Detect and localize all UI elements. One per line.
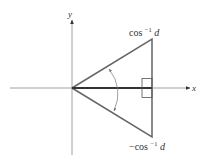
bottom-angle-exponent: −1 <box>150 140 157 147</box>
cone-angle-diagram: y x cos −1 d −cos −1 d <box>0 0 205 155</box>
double-arrow-arc <box>109 69 118 111</box>
top-angle-prefix: cos <box>129 27 142 38</box>
y-axis-label: y <box>67 9 72 19</box>
top-angle-exponent: −1 <box>145 26 152 33</box>
top-angle-label: cos −1 d <box>129 23 160 38</box>
bottom-angle-var: d <box>160 141 166 152</box>
x-axis-label: x <box>191 83 196 93</box>
bottom-angle-label: −cos −1 d <box>129 137 166 152</box>
bottom-angle-prefix: −cos <box>129 141 148 152</box>
top-angle-var: d <box>154 27 160 38</box>
